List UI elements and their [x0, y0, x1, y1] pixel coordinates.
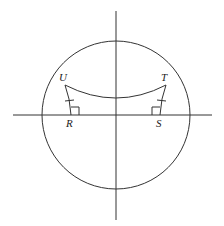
- tick-mark-TS: [157, 100, 166, 101]
- tick-mark-UR: [65, 100, 74, 101]
- geometry-diagram: U T R S: [0, 0, 224, 226]
- right-angle-R: [71, 107, 79, 115]
- label-R: R: [65, 117, 73, 129]
- label-S: S: [156, 117, 162, 129]
- right-angle-S: [152, 107, 160, 115]
- label-T: T: [161, 71, 168, 83]
- label-U: U: [59, 71, 68, 83]
